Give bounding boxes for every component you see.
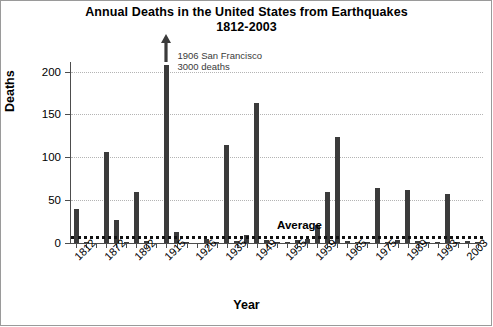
y-axis-tick	[65, 157, 70, 158]
y-axis-tick-label: 200	[42, 66, 61, 78]
gridline	[71, 157, 483, 158]
chart-figure: Annual Deaths in the United States from …	[0, 0, 493, 327]
annotation-line2: 3000 deaths	[177, 61, 262, 72]
chart-title-line2: 1812-2003	[0, 20, 493, 35]
annotation-line1: 1906 San Francisco	[177, 50, 262, 61]
bar	[254, 103, 259, 243]
gridline	[71, 114, 483, 115]
bar	[104, 152, 109, 243]
y-axis-tick-label: 150	[42, 108, 61, 120]
y-axis-tick-label: 0	[55, 237, 61, 249]
up-arrow-icon	[160, 34, 172, 62]
gridline	[71, 72, 483, 73]
bar	[335, 137, 340, 243]
x-axis-tick	[438, 243, 439, 248]
y-axis-tick-label: 100	[42, 151, 61, 163]
x-axis-tick	[197, 243, 198, 248]
y-axis-tick-label: 50	[48, 194, 61, 206]
peak-annotation: 1906 San Francisco 3000 deaths	[177, 50, 262, 72]
average-label: Average	[277, 219, 322, 231]
y-axis-tick	[65, 114, 70, 115]
bar	[405, 190, 410, 243]
plot-area: 050100150200	[71, 63, 483, 243]
chart-title: Annual Deaths in the United States from …	[0, 5, 493, 35]
bar	[224, 145, 229, 243]
y-axis-tick	[65, 243, 70, 244]
y-axis-tick	[65, 200, 70, 201]
x-axis-tick	[408, 243, 409, 248]
x-axis-title: Year	[0, 298, 493, 312]
chart-title-line1: Annual Deaths in the United States from …	[85, 5, 408, 19]
x-axis-tick	[227, 243, 228, 248]
bar	[375, 188, 380, 243]
bar	[164, 65, 169, 243]
x-axis-tick	[257, 243, 258, 248]
y-axis-title: Deaths	[3, 70, 17, 112]
y-axis-tick	[65, 72, 70, 73]
gridline	[71, 200, 483, 201]
